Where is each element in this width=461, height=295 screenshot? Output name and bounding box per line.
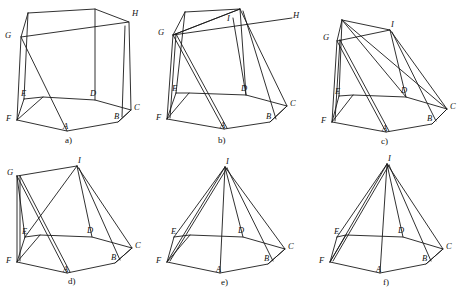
edge-I-A-e xyxy=(220,167,225,273)
vertex-label-A-e: A xyxy=(216,265,221,274)
vertex-label-G-b: G xyxy=(158,28,164,37)
diagonal-G-A2-b xyxy=(176,34,227,128)
figure-panel-e: I E D C F A B e) xyxy=(145,145,305,295)
vertex-label-I-d: I xyxy=(78,156,81,165)
edge-I-C-f xyxy=(387,164,443,249)
vertex-label-I-c: I xyxy=(391,20,394,29)
vertex-label-F-c: F xyxy=(321,116,326,125)
diagonal-G-A2-d xyxy=(20,176,70,272)
vertex-label-C-c: C xyxy=(450,102,456,111)
edge-F-E-d xyxy=(17,237,25,262)
top-face-a xyxy=(21,9,129,37)
vertex-label-F-b: F xyxy=(156,113,161,122)
edge-I-F2-f xyxy=(333,165,389,261)
vertex-label-A-b: A xyxy=(220,121,225,130)
vertex-label-C-a: C xyxy=(134,103,140,112)
edge-I-E-f xyxy=(337,164,387,237)
vertex-label-E-b: E xyxy=(172,84,177,93)
edge-E-inner-d xyxy=(25,235,40,237)
vertex-label-C-e: C xyxy=(288,242,294,251)
vertex-label-E-a: E xyxy=(21,89,26,98)
vertex-label-F-d: F xyxy=(6,256,11,265)
figure-panel-a: G H E D C F A B a) xyxy=(0,0,155,150)
edge-H-C-a xyxy=(129,22,131,110)
edge-I-B-e xyxy=(227,168,273,261)
edge-I-B-f xyxy=(389,165,431,261)
vertex-label-C-d: C xyxy=(135,241,141,250)
diagonal-apex-C-c xyxy=(342,20,447,109)
vertex-label-A-d: A xyxy=(63,265,68,274)
figure-a-drawing xyxy=(0,0,155,150)
figure-caption-e: e) xyxy=(221,278,228,287)
edge-G-F-c xyxy=(332,41,337,122)
vertex-label-B-c: B xyxy=(427,114,432,123)
edge-I-E-e xyxy=(174,167,225,237)
figure-caption-f: f) xyxy=(383,278,389,287)
figure-panel-f: I E D C F A B f) xyxy=(295,145,461,295)
edge-I-B-d xyxy=(79,168,120,260)
vertex-label-A-a: A xyxy=(63,122,68,131)
vertex-label-E-c: E xyxy=(335,87,340,96)
figure-caption-d: d) xyxy=(68,277,76,286)
diagonal-G-A-b xyxy=(173,35,224,129)
vertex-label-C-f: C xyxy=(446,242,452,251)
edge-H-B-a xyxy=(122,26,125,117)
vertex-label-D-a: D xyxy=(90,89,96,98)
diagonal-G-A-c xyxy=(337,41,386,132)
vertex-label-B-e: B xyxy=(264,254,269,263)
vertex-label-G-d: G xyxy=(7,168,13,177)
edge-I-B-c xyxy=(392,32,436,121)
vertex-label-E-f: E xyxy=(334,227,339,236)
figure-panel-c: G I E D C F A B c) xyxy=(295,0,461,150)
vertex-label-B-a: B xyxy=(114,112,119,121)
vertex-label-E-e: E xyxy=(171,227,176,236)
figure-caption-b: b) xyxy=(218,136,226,145)
vertex-label-D-f: D xyxy=(398,226,404,235)
vertex-label-D-d: D xyxy=(87,226,93,235)
vertex-label-I-f: I xyxy=(388,154,391,163)
edge-I-F-f xyxy=(330,164,387,262)
vertex-label-A-c: A xyxy=(382,124,387,133)
edge-topright-B-b xyxy=(243,11,276,119)
vertex-label-F-e: F xyxy=(156,256,161,265)
edge-I-F2-e xyxy=(170,168,227,261)
vertex-label-H-a: H xyxy=(132,9,138,18)
figure-sheet: G H E D C F A B a) xyxy=(0,0,461,295)
diagonal-G-A-a xyxy=(21,37,67,131)
vertex-label-I-b: I xyxy=(227,14,230,23)
vertex-label-D-c: D xyxy=(401,86,407,95)
vertex-label-G-c: G xyxy=(323,33,329,42)
vertex-label-E-d: E xyxy=(22,227,27,236)
edge-B-C-a xyxy=(118,110,131,122)
figure-d-drawing xyxy=(0,145,155,295)
vertex-label-F-a: F xyxy=(6,114,11,123)
edge-to-H-b xyxy=(173,18,292,35)
figure-c-drawing xyxy=(295,0,461,150)
vertex-label-D-e: D xyxy=(238,226,244,235)
edge-I-A-f xyxy=(380,164,387,273)
vertex-label-D-b: D xyxy=(241,84,247,93)
edge-G-F-a xyxy=(17,37,21,120)
figure-caption-a: a) xyxy=(65,136,72,145)
edge-I-F-e xyxy=(167,167,225,262)
vertex-label-I-e: I xyxy=(226,157,229,166)
edge-G-I-d xyxy=(17,166,77,176)
vertex-label-B-b: B xyxy=(266,112,271,121)
figure-e-drawing xyxy=(145,145,305,295)
figure-panel-d: G I E D C F A B d) xyxy=(0,145,155,295)
edge-E-inner-a xyxy=(24,97,43,99)
edge-F-E-f xyxy=(330,237,337,262)
edge-apex-E-b xyxy=(176,12,185,93)
vertex-label-A-f: A xyxy=(376,265,381,274)
edge-G-F2-b xyxy=(170,34,176,118)
vertex-label-B-d: B xyxy=(111,253,116,262)
edge-E-inner-c xyxy=(339,95,353,96)
figure-panel-b: G I H E D C F A B b) xyxy=(145,0,305,150)
vertex-label-G-a: G xyxy=(5,31,11,40)
vertex-label-F-f: F xyxy=(319,256,324,265)
edge-G-F-b xyxy=(167,35,173,119)
vertex-label-B-f: B xyxy=(422,254,427,263)
